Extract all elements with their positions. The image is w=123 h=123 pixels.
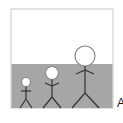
edge-text: A (117, 96, 123, 110)
stick-figures-diagram (0, 0, 123, 123)
